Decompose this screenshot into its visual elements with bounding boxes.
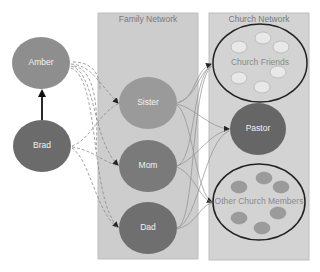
node-sister[interactable]: Sister [119, 77, 177, 129]
amber-label: Amber [28, 57, 53, 67]
brad-label: Brad [33, 140, 51, 150]
node-dad[interactable]: Dad [119, 202, 177, 254]
node-other-church-members[interactable]: Other Church Members [213, 164, 305, 240]
dad-label: Dad [140, 222, 156, 232]
church-network-title: Church Network [229, 14, 291, 24]
sister-label: Sister [137, 97, 159, 107]
family-network-title: Family Network [119, 14, 178, 24]
pastor-label: Pastor [246, 123, 271, 133]
church-friends-label: Church Friends [231, 57, 289, 67]
network-diagram: Family Network Church Network Amber [0, 0, 320, 272]
node-amber[interactable]: Amber [12, 37, 70, 89]
node-brad[interactable]: Brad [13, 120, 71, 172]
other-church-members-label: Other Church Members [215, 196, 304, 206]
mom-label: Mom [139, 160, 158, 170]
node-church-friends[interactable]: Church Friends [213, 24, 307, 102]
node-pastor[interactable]: Pastor [230, 103, 286, 155]
node-mom[interactable]: Mom [119, 140, 177, 192]
